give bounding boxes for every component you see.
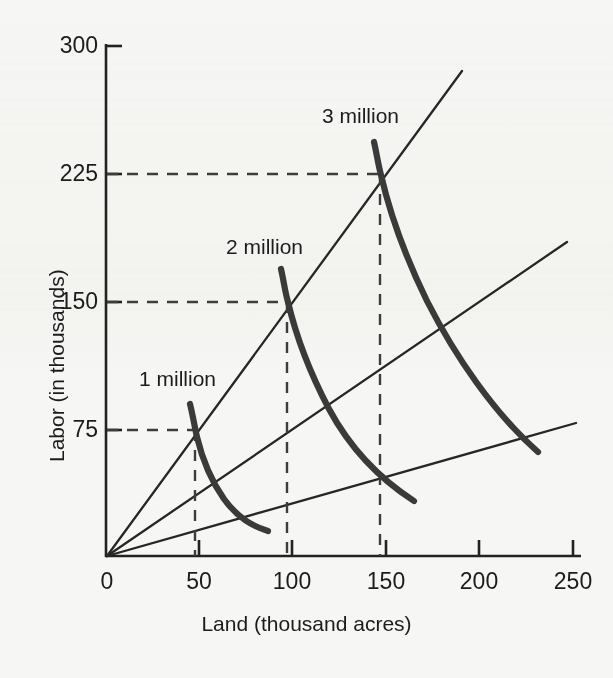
isoquant-3-million (374, 142, 538, 452)
ray-middle-line (107, 242, 567, 556)
x-tick-label-100: 100 (262, 570, 322, 593)
ray-shallow-line (107, 423, 576, 556)
y-tick-label-225: 225 (36, 162, 98, 185)
x-tick-label-150: 150 (356, 570, 416, 593)
x-tick-label-200: 200 (449, 570, 509, 593)
isoquant-1-million (190, 404, 268, 531)
x-axis-title: Land (thousand acres) (0, 613, 613, 634)
isoquant-chart-figure: 300 225 150 75 0 50 100 150 200 250 Labo… (0, 0, 613, 678)
x-tick-label-250: 250 (543, 570, 603, 593)
isoquant-label-1-million: 1 million (139, 368, 216, 389)
y-axis-title: Labor (in thousands) (46, 269, 67, 462)
x-tick-label-50: 50 (169, 570, 229, 593)
x-tick-label-0: 0 (77, 570, 137, 593)
x-tick-marks (199, 540, 573, 556)
isoquant-label-2-million: 2 million (226, 236, 303, 257)
isoquant-curves-group (190, 142, 538, 531)
expansion-rays-group (107, 71, 576, 556)
isoquant-2-million (281, 269, 414, 501)
ray-steep-line (107, 71, 462, 556)
isoquant-label-3-million: 3 million (322, 105, 399, 126)
y-tick-marks (106, 46, 122, 430)
y-tick-label-300: 300 (36, 34, 98, 57)
